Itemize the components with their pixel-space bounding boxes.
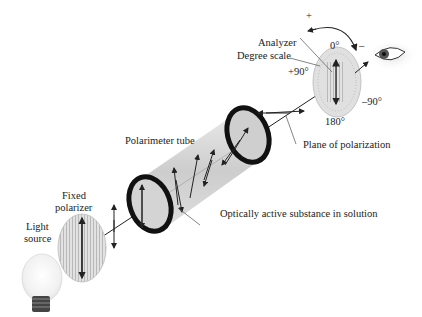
light-source-label-1: Light — [26, 221, 49, 233]
fixed-polarizer-label-1: Fixed — [62, 190, 86, 202]
minus-sign-label: – — [359, 40, 364, 52]
plus-sign-label: + — [306, 10, 312, 22]
analyzer-label: Analyzer — [258, 37, 296, 49]
minus-90-label: –90° — [362, 96, 382, 108]
180-degree-label: 180° — [325, 116, 345, 128]
polarimeter-tube-label: Polarimeter tube — [125, 135, 195, 147]
fixed-polarizer-label-2: polarizer — [55, 202, 92, 214]
light-bulb-icon — [22, 254, 62, 312]
eye-icon — [366, 39, 418, 71]
degree-scale-label: Degree scale — [237, 50, 291, 62]
plus-90-label: +90° — [288, 66, 309, 78]
plane-of-polarization-label: Plane of polarization — [303, 139, 390, 151]
light-source-label-2: source — [24, 233, 51, 245]
zero-degree-label: 0° — [330, 40, 339, 52]
optically-active-label: Optically active substance in solution — [220, 208, 377, 220]
polarimeter-diagram: + – Analyzer Degree scale 0° +90° –90° 1… — [0, 0, 422, 317]
fixed-polarizer-disk — [58, 214, 106, 282]
